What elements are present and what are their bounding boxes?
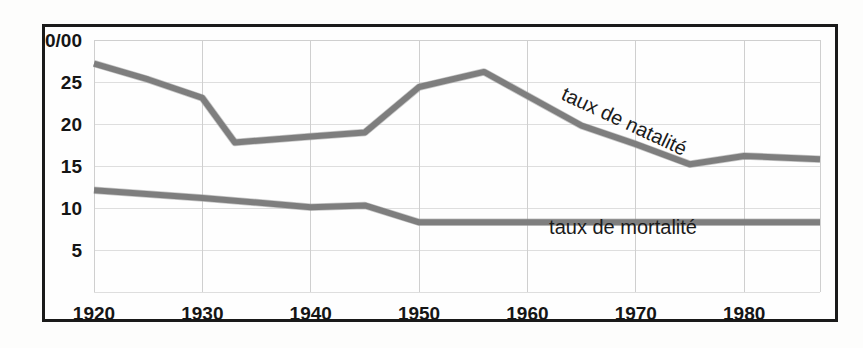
x-axis-tick-label: 1940 — [290, 303, 332, 324]
series-line — [94, 190, 820, 222]
series-line — [94, 64, 820, 165]
x-axis-tick-label: 1960 — [506, 303, 548, 324]
y-axis-tick-label: 5 — [71, 240, 82, 261]
x-axis-tick-label: 1980 — [723, 303, 765, 324]
figure-container: 5101520250/00192019301940195019601970198… — [0, 0, 863, 348]
y-axis-tick-label: 15 — [61, 156, 83, 177]
x-axis-tick-label: 1950 — [398, 303, 440, 324]
y-axis-tick-label: 20 — [61, 114, 82, 135]
chart-plot-stack: 5101520250/00192019301940195019601970198… — [0, 0, 863, 348]
line-chart: 5101520250/00192019301940195019601970198… — [0, 0, 863, 348]
x-axis-tick-label: 1930 — [181, 303, 223, 324]
y-axis-unit-label: 0/00 — [45, 30, 82, 51]
y-axis-tick-label: 10 — [61, 198, 82, 219]
x-axis-tick-label: 1920 — [73, 303, 115, 324]
y-axis-tick-label: 25 — [61, 72, 83, 93]
x-axis-tick-label: 1970 — [615, 303, 657, 324]
series-annotation-label: taux de mortalité — [549, 216, 697, 238]
